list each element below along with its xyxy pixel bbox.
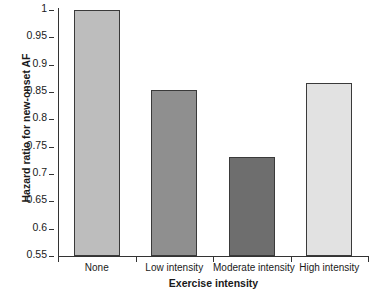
x-axis-tick-label: High intensity	[291, 262, 369, 273]
bar	[74, 10, 120, 256]
x-axis-tick-label: Moderate intensity	[213, 262, 291, 273]
y-axis-tick-mark	[49, 147, 54, 148]
y-axis-tick-label: 0.95	[27, 29, 47, 41]
y-axis-tick-mark	[49, 229, 54, 230]
y-axis-tick-label: 0.7	[32, 166, 47, 178]
bar	[151, 90, 197, 256]
x-axis-title: Exercise intensity	[58, 277, 369, 289]
bar	[306, 83, 352, 256]
y-axis-tick-label: 0.85	[27, 84, 47, 96]
x-axis-tick-label: Low intensity	[136, 262, 214, 273]
y-axis-tick-label: 0.65	[27, 193, 47, 205]
y-axis-tick-label: 0.8	[32, 111, 47, 123]
y-axis-tick-mark	[49, 92, 54, 93]
bar-chart-figure: Hazard ratio for new-onset AF 0.550.60.6…	[0, 0, 381, 295]
y-axis-tick-label: 0.6	[32, 221, 47, 233]
y-axis-tick-mark	[49, 37, 54, 38]
x-axis-tick-label: None	[58, 262, 136, 273]
y-axis-tick-label: 0.9	[32, 57, 47, 69]
y-axis-tick-mark	[49, 65, 54, 66]
y-axis-tick-mark	[49, 201, 54, 202]
y-axis-tick-mark	[49, 174, 54, 175]
y-axis-tick-mark	[49, 256, 54, 257]
y-axis-tick-label: 0.55	[27, 248, 47, 260]
y-axis-tick-mark	[49, 119, 54, 120]
bar	[229, 157, 275, 256]
y-axis-tick-label: 0.75	[27, 139, 47, 151]
plot-area	[58, 10, 368, 256]
y-axis-tick-mark	[49, 10, 54, 11]
y-axis-tick-label: 1	[41, 2, 47, 14]
x-axis-tick-mark	[368, 257, 369, 262]
